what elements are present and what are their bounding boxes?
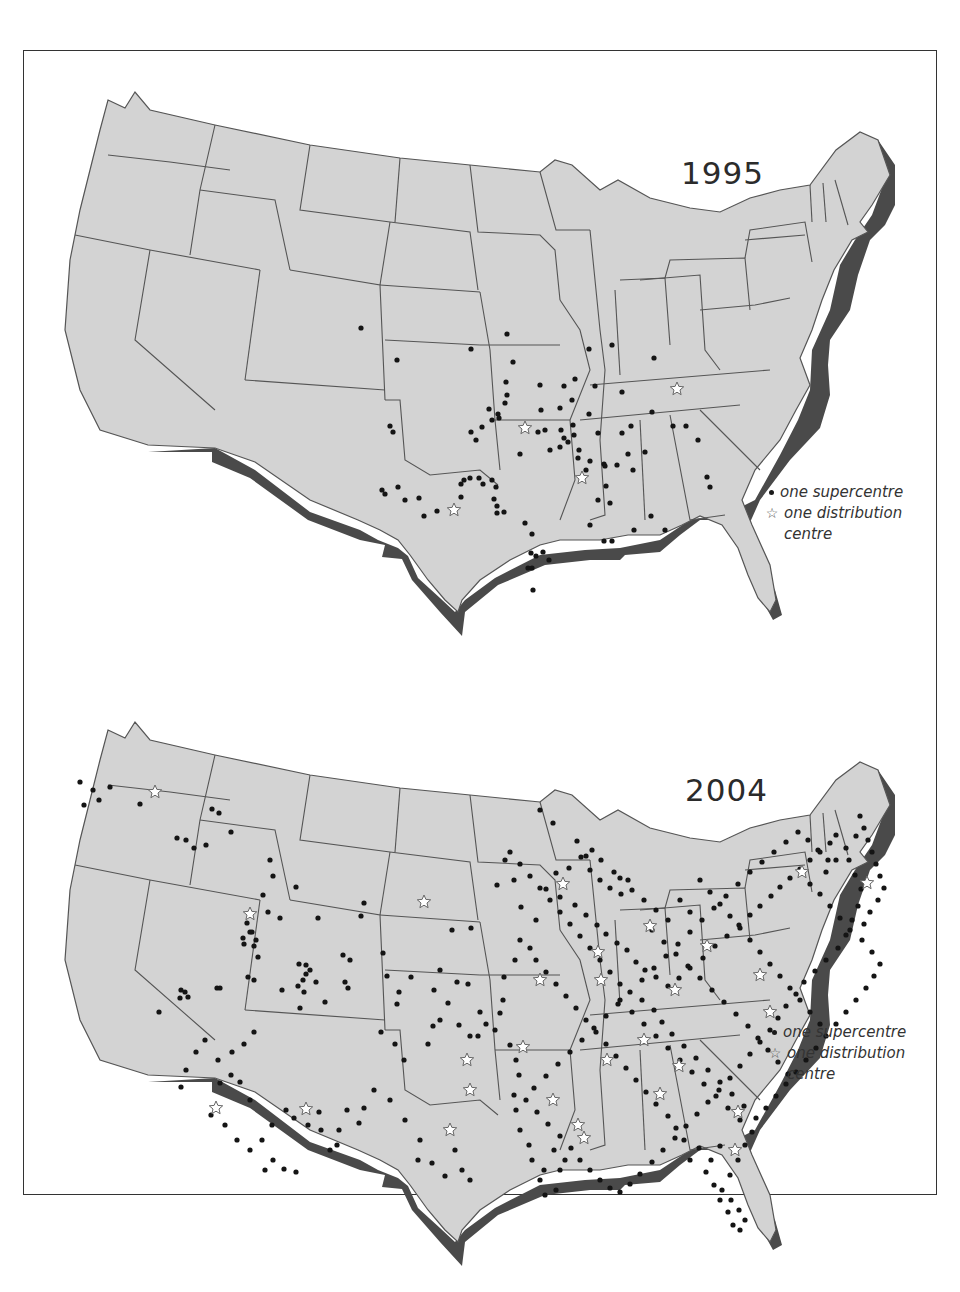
dot-icon	[772, 1030, 777, 1035]
supercentre-dot	[265, 909, 270, 914]
supercentre-dot	[583, 1017, 588, 1022]
coast-shadow	[148, 770, 895, 1266]
supercentre-dot	[727, 1075, 732, 1080]
supercentre-dot	[735, 1157, 740, 1162]
supercentre-dot	[651, 1007, 656, 1012]
supercentre-dot	[305, 1122, 310, 1127]
supercentre-dot	[483, 1021, 488, 1026]
supercentre-dot	[425, 1041, 430, 1046]
supercentre-dot	[857, 813, 862, 818]
supercentre-dot	[228, 1072, 233, 1077]
supercentre-dot	[859, 937, 864, 942]
supercentre-dot	[643, 1089, 648, 1094]
supercentre-dot	[833, 832, 838, 837]
supercentre-dot	[209, 806, 214, 811]
supercentre-dot	[237, 1079, 242, 1084]
supercentre-dot	[217, 985, 222, 990]
supercentre-dot	[673, 951, 678, 956]
supercentre-dot	[705, 1067, 710, 1072]
supercentre-dot	[511, 877, 516, 882]
supercentre-dot	[742, 1217, 747, 1222]
supercentre-dot	[523, 1097, 528, 1102]
supercentre-dot	[639, 997, 644, 1002]
supercentre-dot	[502, 857, 507, 862]
supercentre-dot	[717, 1079, 722, 1084]
distribution-centre-star-icon	[533, 973, 546, 986]
supercentre-dot	[553, 981, 558, 986]
supercentre-dot	[512, 957, 517, 962]
supercentre-dot	[855, 903, 860, 908]
supercentre-dot	[607, 1185, 612, 1190]
supercentre-dot	[723, 893, 728, 898]
supercentre-dot	[603, 1013, 608, 1018]
supercentre-dot	[517, 937, 522, 942]
supercentre-dot	[759, 859, 764, 864]
supercentre-dot	[729, 1091, 734, 1096]
supercentre-dot	[537, 807, 542, 812]
supercentre-dot	[687, 1157, 692, 1162]
supercentre-dot	[557, 1167, 562, 1172]
supercentre-dot	[603, 1041, 608, 1046]
supercentre-dot	[562, 1157, 567, 1162]
supercentre-dot	[753, 1115, 758, 1120]
supercentre-dot	[869, 849, 874, 854]
supercentre-dot	[673, 1125, 678, 1130]
supercentre-dot	[452, 1147, 457, 1152]
supercentre-dot	[757, 903, 762, 908]
distribution-centre-star-icon	[600, 1053, 613, 1066]
supercentre-dot	[269, 1122, 274, 1127]
supercentre-dot	[861, 825, 866, 830]
supercentre-dot	[736, 922, 741, 927]
supercentre-dot	[693, 1055, 698, 1060]
supercentre-dot	[649, 927, 654, 932]
supercentre-dot	[617, 997, 622, 1002]
supercentre-dot	[777, 884, 782, 889]
supercentre-dot	[717, 1197, 722, 1202]
supercentre-dot	[296, 961, 301, 966]
supercentre-dot	[815, 847, 820, 852]
supercentre-dot	[316, 1109, 321, 1114]
supercentre-dot	[191, 845, 196, 850]
star-icon: ☆	[766, 1043, 784, 1064]
distribution-centre-star-icon	[763, 1005, 776, 1018]
supercentre-dot	[719, 1187, 724, 1192]
supercentre-dot	[579, 1037, 584, 1042]
supercentre-dot	[687, 909, 692, 914]
supercentre-dot	[771, 849, 776, 854]
supercentre-dot	[837, 915, 842, 920]
supercentre-dot	[183, 1067, 188, 1072]
supercentre-dot	[297, 1005, 302, 1010]
supercentre-dot	[526, 1142, 531, 1147]
supercentre-dot	[747, 912, 752, 917]
supercentre-dot	[727, 913, 732, 918]
supercentre-dot	[137, 801, 142, 806]
supercentre-dot	[557, 894, 562, 899]
supercentre-dot	[611, 869, 616, 874]
supercentre-dot	[661, 939, 666, 944]
supercentre-dot	[835, 945, 840, 950]
supercentre-dot	[557, 909, 562, 914]
supercentre-dot	[293, 884, 298, 889]
supercentre-dot	[270, 873, 275, 878]
supercentre-dot	[733, 1011, 738, 1016]
supercentre-dot	[408, 974, 413, 979]
supercentre-dot	[77, 779, 82, 784]
supercentre-dot	[712, 943, 717, 948]
supercentre-dot	[846, 857, 851, 862]
supercentre-dot	[300, 977, 305, 982]
supercentre-dot	[402, 1117, 407, 1122]
supercentre-dot	[295, 983, 300, 988]
legend-distribution: ☆ one distribution	[766, 1043, 906, 1064]
supercentre-dot	[653, 907, 658, 912]
supercentre-dot	[687, 929, 692, 934]
supercentre-dot	[755, 1035, 760, 1040]
supercentre-dot	[873, 861, 878, 866]
supercentre-dot	[217, 1080, 222, 1085]
supercentre-dot	[724, 933, 729, 938]
supercentre-dot	[681, 1137, 686, 1142]
supercentre-dot	[342, 979, 347, 984]
supercentre-dot	[315, 915, 320, 920]
supercentre-dot	[572, 902, 577, 907]
supercentre-dot	[247, 1147, 252, 1152]
supercentre-dot	[251, 1029, 256, 1034]
